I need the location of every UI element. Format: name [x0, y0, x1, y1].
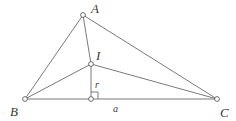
- triangle-incenter-diagram: A I B C r a: [0, 0, 236, 121]
- label-B: B: [10, 104, 18, 119]
- segment-AC: [83, 15, 217, 99]
- vertex-marker-A: [81, 13, 86, 18]
- label-I: I: [95, 48, 101, 63]
- label-base-a: a: [113, 103, 118, 114]
- segment-AB: [25, 15, 83, 99]
- vertex-marker-H: [89, 97, 94, 102]
- vertex-marker-I: [89, 62, 94, 67]
- label-inradius-r: r: [95, 79, 99, 90]
- vertex-marker-C: [215, 97, 220, 102]
- segment-IC: [91, 64, 217, 99]
- vertex-marker-B: [23, 97, 28, 102]
- segment-IB: [25, 64, 91, 99]
- segment-AI: [83, 15, 91, 64]
- label-C: C: [220, 105, 229, 120]
- label-A: A: [90, 1, 99, 16]
